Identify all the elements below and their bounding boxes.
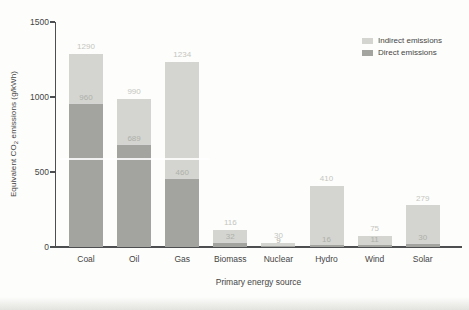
x-axis-label-coal: Coal bbox=[62, 254, 110, 264]
direct-value-label-nuclear: 9 bbox=[258, 236, 298, 245]
legend: Indirect emissions Direct emissions bbox=[362, 36, 442, 60]
y-axis-title: Equivalent CO2 emissions (g/kWh) bbox=[9, 71, 20, 197]
direct-value-label-coal: 960 bbox=[66, 93, 106, 102]
direct-value-label-hydro: 16 bbox=[307, 235, 347, 244]
y-axis-title-subscript: 2 bbox=[13, 141, 19, 144]
x-axis-label-oil: Oil bbox=[110, 254, 158, 264]
direct-value-label-biomass: 32 bbox=[210, 232, 250, 241]
y-tick-label: 0 bbox=[9, 242, 49, 253]
total-value-label-biomass: 116 bbox=[210, 218, 250, 227]
legend-label-direct: Direct emissions bbox=[378, 48, 437, 57]
bar-direct-nuclear bbox=[261, 246, 295, 247]
y-tick-label: 500 bbox=[9, 167, 49, 178]
y-tick-mark bbox=[50, 171, 55, 172]
y-axis-line bbox=[55, 22, 56, 247]
x-axis-label-hydro: Hydro bbox=[303, 254, 351, 264]
bar-direct-hydro bbox=[310, 245, 344, 247]
legend-item-indirect: Indirect emissions bbox=[362, 36, 442, 45]
bar-direct-biomass bbox=[213, 242, 247, 247]
total-value-label-gas: 1234 bbox=[162, 50, 202, 59]
y-tick-mark bbox=[50, 21, 55, 22]
total-value-label-solar: 279 bbox=[403, 194, 443, 203]
figure: Equivalent CO2 emissions (g/kWh) 0500100… bbox=[0, 0, 469, 310]
x-axis-label-biomass: Biomass bbox=[206, 254, 254, 264]
x-axis-label-gas: Gas bbox=[158, 254, 206, 264]
legend-swatch-direct bbox=[362, 50, 373, 56]
y-tick-label: 1500 bbox=[9, 17, 49, 28]
x-axis-label-solar: Solar bbox=[399, 254, 447, 264]
direct-value-label-oil: 689 bbox=[114, 134, 154, 143]
y-tick-mark bbox=[50, 96, 55, 97]
y-axis-title-suffix: emissions (g/kWh) bbox=[9, 71, 18, 141]
total-value-label-coal: 1290 bbox=[66, 42, 106, 51]
x-axis-title: Primary energy source bbox=[55, 277, 462, 287]
direct-value-label-wind: 11 bbox=[355, 235, 395, 244]
x-axis-line bbox=[55, 246, 462, 247]
scan-artifact-line bbox=[60, 158, 210, 160]
y-tick-mark bbox=[50, 246, 55, 247]
direct-value-label-gas: 460 bbox=[162, 168, 202, 177]
x-axis-label-nuclear: Nuclear bbox=[254, 254, 302, 264]
total-value-label-oil: 990 bbox=[114, 87, 154, 96]
total-value-label-wind: 75 bbox=[355, 224, 395, 233]
bar-direct-solar bbox=[406, 243, 440, 248]
legend-item-direct: Direct emissions bbox=[362, 48, 442, 57]
bar-direct-coal bbox=[69, 103, 103, 247]
bar-indirect-gas bbox=[165, 62, 199, 178]
x-axis-label-wind: Wind bbox=[351, 254, 399, 264]
bar-direct-gas bbox=[165, 178, 199, 247]
direct-value-label-solar: 30 bbox=[403, 233, 443, 242]
page-shadow bbox=[0, 297, 469, 310]
legend-label-indirect: Indirect emissions bbox=[378, 36, 442, 45]
y-tick-label: 1000 bbox=[9, 92, 49, 103]
bar-direct-wind bbox=[358, 245, 392, 247]
legend-swatch-indirect bbox=[362, 38, 373, 44]
total-value-label-hydro: 410 bbox=[307, 174, 347, 183]
